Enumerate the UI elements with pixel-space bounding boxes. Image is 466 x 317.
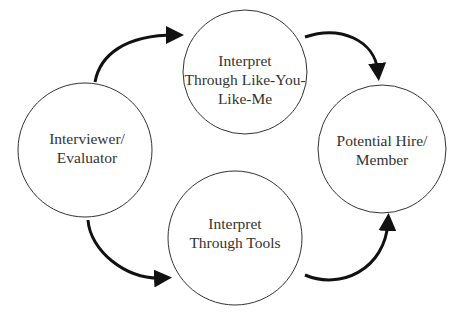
node-top-label: Interpret Through Like-You- Like-Me	[184, 51, 305, 108]
arrow-left-to-top	[95, 35, 175, 82]
node-left-label: Interviewer/ Evaluator	[49, 129, 125, 167]
arrow-bottom-to-right	[305, 222, 388, 280]
arrow-top-to-right	[305, 33, 378, 72]
node-bottom-label: Interpret Through Tools	[189, 214, 280, 252]
arrow-left-to-bottom	[88, 220, 163, 278]
node-right-label: Potential Hire/ Member	[337, 131, 428, 169]
